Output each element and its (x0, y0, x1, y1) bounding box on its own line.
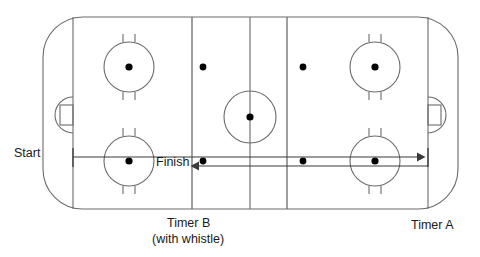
rink-diagram: Start Finish Timer B (with whistle) Time… (0, 0, 480, 257)
neutral-dot-bottom-right (300, 158, 307, 165)
neutral-dot-top-right (300, 64, 307, 71)
center-faceoff-dot (246, 113, 253, 120)
label-timer-a: Timer A (411, 218, 454, 232)
label-finish: Finish (156, 155, 189, 169)
label-start: Start (14, 146, 40, 160)
neutral-dot-top-left (200, 64, 207, 71)
neutral-dot-bottom-left (200, 158, 207, 165)
label-timer-b-note: (with whistle) (152, 232, 224, 246)
rink-graphic (0, 0, 480, 257)
label-timer-b: Timer B (167, 216, 210, 230)
